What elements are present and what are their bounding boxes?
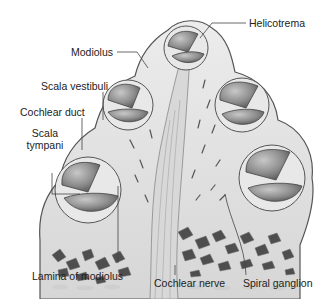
label-modiolus: Modiolus	[71, 46, 113, 58]
label-spiral-ganglion: Spiral ganglion	[243, 277, 312, 289]
left-middle-turn	[103, 80, 153, 130]
label-scala-tympani: Scala tympani	[25, 127, 65, 151]
label-helicotrema: Helicotrema	[249, 17, 305, 29]
label-lamina-of-modiolus: Lamina of modiolus	[32, 270, 123, 282]
right-middle-turn	[215, 78, 269, 132]
left-basal-turn	[55, 157, 121, 223]
label-scala-vestibuli: Scala vestibuli	[41, 80, 108, 92]
label-cochlear-duct: Cochlear duct	[20, 106, 85, 118]
label-cochlear-nerve: Cochlear nerve	[154, 277, 225, 289]
apex-turn	[164, 26, 208, 70]
label-scala-tympani-line1: Scala	[32, 127, 58, 139]
right-basal-turn	[239, 145, 305, 211]
label-scala-tympani-line2: tympani	[27, 139, 64, 151]
